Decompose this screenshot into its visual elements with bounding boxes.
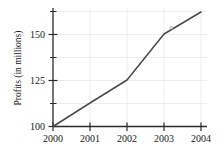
xtick-label-2000: 2000 — [43, 133, 63, 144]
xtick-label-2002: 2002 — [117, 133, 137, 144]
y-axis-title: Profits (in millions) — [13, 31, 24, 106]
ytick-label-100: 100 — [30, 121, 45, 132]
xtick-label-2003: 2003 — [154, 133, 174, 144]
xtick-label-2004: 2004 — [191, 133, 211, 144]
chart-canvas: 150 125 100 2000 2001 2002 2003 2004 Pro… — [0, 0, 219, 154]
ytick-label-150: 150 — [30, 29, 45, 40]
profits-line-chart-figure: 150 125 100 2000 2001 2002 2003 2004 Pro… — [0, 0, 219, 154]
line-marker-dot — [169, 26, 172, 29]
xtick-label-2001: 2001 — [80, 133, 100, 144]
ytick-label-125: 125 — [30, 75, 45, 86]
